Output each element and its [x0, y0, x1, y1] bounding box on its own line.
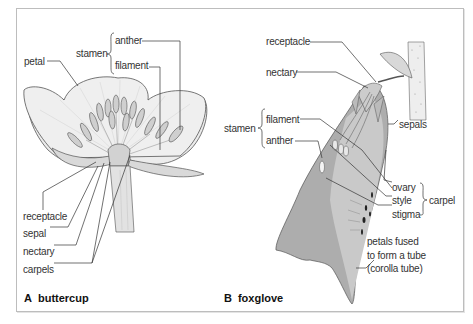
label-stamen-b: stamen: [224, 123, 256, 134]
label-receptacle-b: receptacle: [266, 36, 310, 47]
label-carpel: carpel: [429, 195, 455, 206]
buttercup-illustration: [24, 77, 207, 232]
panel-a-letter: A: [24, 292, 32, 304]
label-stamen: stamen: [76, 48, 108, 59]
label-nectary-b: nectary: [266, 67, 297, 78]
label-filament-b: filament: [266, 114, 299, 125]
panel-b-caption: Bfoxglove: [224, 292, 283, 304]
label-corolla-line2: to form a tube: [367, 250, 426, 261]
label-nectary: nectary: [23, 246, 54, 257]
label-corolla-line1: petals fused: [367, 236, 419, 247]
label-carpels: carpels: [23, 264, 54, 275]
label-filament: filament: [115, 60, 148, 71]
label-petal: petal: [24, 56, 45, 67]
panel-a-caption: Abuttercup: [24, 292, 89, 304]
label-stigma: stigma: [392, 209, 420, 220]
label-receptacle: receptacle: [23, 211, 67, 222]
panel-b-letter: B: [224, 292, 232, 304]
label-ovary: ovary: [392, 182, 415, 193]
label-sepal: sepal: [23, 228, 46, 239]
panel-b-title: foxglove: [238, 292, 283, 304]
panel-a-title: buttercup: [38, 292, 89, 304]
label-anther-b: anther: [266, 135, 293, 146]
label-anther: anther: [115, 35, 142, 46]
diagram-artwork: [0, 0, 473, 324]
label-style: style: [392, 195, 412, 206]
label-sepals: sepals: [399, 119, 427, 130]
label-corolla-line3: (corolla tube): [367, 263, 423, 274]
